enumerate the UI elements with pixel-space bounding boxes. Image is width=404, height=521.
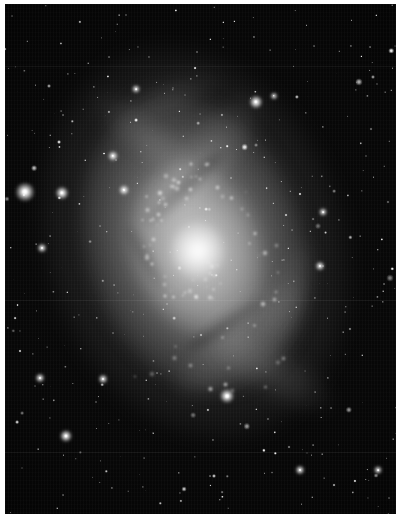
object-catalog: M33 [0,0,1,1]
sky-field [5,4,396,514]
image-frame: Triangulum Galaxy M33 [0,0,404,521]
plate-scanline-texture-vertical [5,4,396,514]
object-name: Triangulum Galaxy [0,0,1,1]
image-caption [0,0,1,1]
